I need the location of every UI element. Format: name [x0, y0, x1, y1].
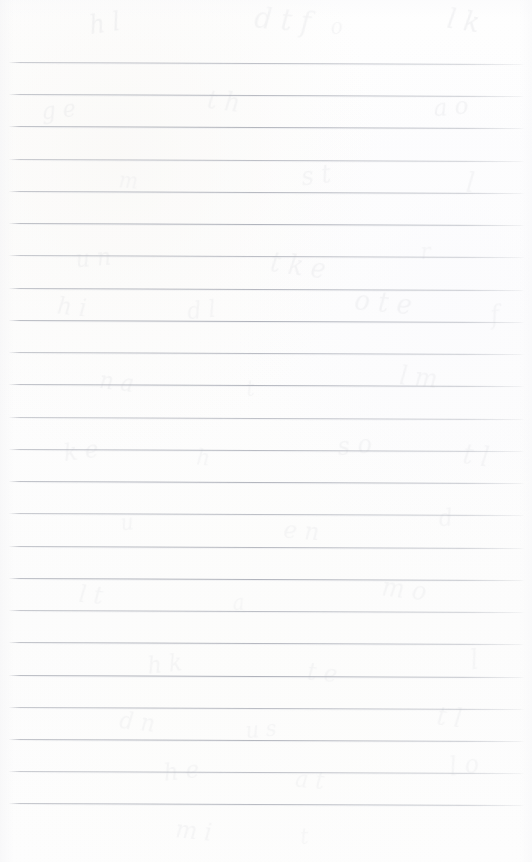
notebook-page: h ld t fol kg et ha oms tlu nt k erh id … [0, 0, 532, 862]
writing-area[interactable] [9, 62, 524, 804]
